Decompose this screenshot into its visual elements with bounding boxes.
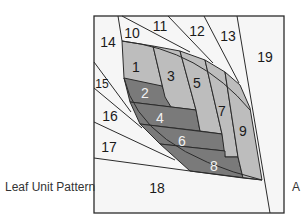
label-10: 10 xyxy=(124,25,140,41)
label-19: 19 xyxy=(257,49,273,65)
label-8: 8 xyxy=(210,158,218,174)
label-14: 14 xyxy=(100,34,116,50)
label-6: 6 xyxy=(178,133,186,149)
label-13: 13 xyxy=(220,28,236,44)
pattern-caption: Leaf Unit Pattern xyxy=(5,180,95,194)
label-17: 17 xyxy=(101,139,117,155)
corner-label: A xyxy=(292,180,300,194)
label-16: 16 xyxy=(102,108,118,124)
label-11: 11 xyxy=(153,18,168,34)
label-9: 9 xyxy=(239,123,247,139)
label-3: 3 xyxy=(167,68,175,84)
label-7: 7 xyxy=(218,103,226,119)
label-18: 18 xyxy=(149,180,165,196)
label-2: 2 xyxy=(141,85,149,101)
label-4: 4 xyxy=(156,110,164,126)
label-5: 5 xyxy=(193,75,201,91)
label-15: 15 xyxy=(95,77,109,91)
label-1: 1 xyxy=(132,59,140,75)
label-12: 12 xyxy=(189,23,205,39)
